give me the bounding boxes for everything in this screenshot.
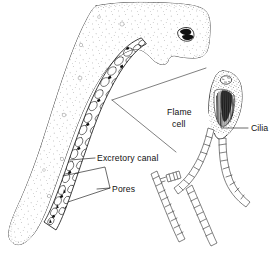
label-flame-cell-line1: Flame	[167, 107, 192, 117]
diagram-canvas: Excretory canal Pores Flame cell Cilia	[0, 0, 278, 265]
body-stipple-texture	[0, 0, 278, 265]
tubule-chain-right	[186, 185, 217, 246]
tubule-right-wall	[219, 138, 250, 207]
label-flame-cell-line2: cell	[172, 119, 186, 129]
worm-body	[0, 0, 278, 265]
tubule-chain-short	[158, 171, 181, 183]
flame-cell-tubule	[174, 128, 250, 207]
flame-cell-nucleus	[220, 76, 231, 84]
flatworm-excretory-diagram: Excretory canal Pores Flame cell Cilia	[0, 0, 278, 265]
label-pores: Pores	[112, 184, 135, 194]
label-cilia: Cilia	[251, 123, 268, 133]
magnification-cone-lines	[112, 68, 206, 152]
tubule-left-wall	[174, 128, 214, 194]
label-excretory-canal: Excretory canal	[97, 153, 158, 163]
